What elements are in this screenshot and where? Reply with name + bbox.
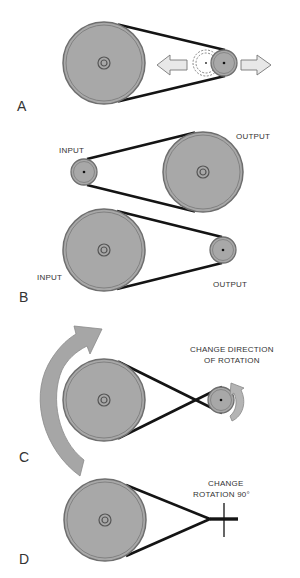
panel-b-drive-2: INPUT OUTPUT B [19, 209, 247, 305]
output-label: OUTPUT [236, 132, 270, 141]
belt-drive-diagram: A INPUT OUTPUT INPUT [0, 0, 300, 578]
drive-pulley [63, 359, 145, 441]
caption-line-2: ROTATION 90° [193, 490, 250, 499]
output-pulley-small [210, 237, 236, 263]
arrow-right-icon [241, 55, 271, 75]
panel-c: CHANGE DIRECTION OF ROTATION C [19, 326, 274, 476]
panel-a: A [17, 22, 271, 114]
panel-d: CHANGE ROTATION 90° D [19, 479, 250, 567]
panel-label-d: D [19, 551, 29, 567]
small-pulley [211, 50, 237, 76]
caption-line-2: OF ROTATION [204, 356, 260, 365]
panel-label-b: B [19, 289, 28, 305]
output-label: OUTPUT [213, 280, 247, 289]
panel-label-a: A [17, 98, 27, 114]
panel-label-c: C [19, 449, 29, 465]
panel-b-drive-1: INPUT OUTPUT [59, 132, 270, 212]
large-pulley [63, 22, 145, 104]
arrow-left-icon [157, 55, 187, 75]
output-pulley-large [163, 132, 243, 212]
input-label: INPUT [37, 273, 62, 282]
caption-line-1: CHANGE [208, 479, 243, 488]
input-pulley-small [71, 159, 97, 185]
caption-line-1: CHANGE DIRECTION [190, 345, 274, 354]
input-pulley-large [63, 209, 145, 291]
input-label: INPUT [59, 146, 84, 155]
drive-pulley [64, 479, 146, 561]
